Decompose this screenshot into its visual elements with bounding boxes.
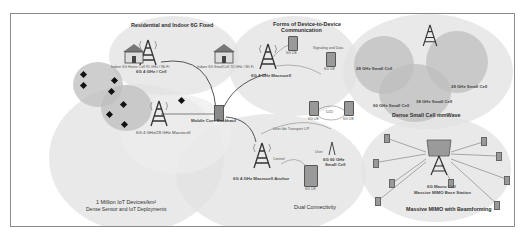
mimo-station-line1: 6G Macro Cell	[427, 184, 456, 189]
residential-title: Residential and Indoor 6G Fixed	[131, 22, 213, 28]
iot-tower-label: 6G 4 GHz/28 GHz Macrocell	[136, 130, 190, 135]
dual-ue-label: 6G UE	[305, 187, 316, 191]
mmwave-cell-d-label: 60 GHz Small Cell	[373, 103, 409, 108]
ue-right-label: 6G UE	[343, 117, 354, 121]
user-plane-label: User-Ide Transport L/P	[273, 127, 309, 131]
ue-left-label: 6G UE	[308, 117, 319, 121]
phone-icon	[326, 52, 336, 67]
d2d-title-line2: Communication	[281, 27, 322, 33]
tower-icon	[255, 42, 281, 70]
mmwave-title: Dense Small Cell mmWave	[392, 112, 460, 118]
d2d-tower-label: 6G 4 GHz Macrocell	[251, 73, 291, 78]
phone-icon	[288, 36, 298, 51]
ue-mid-label: 6G UE	[324, 67, 335, 71]
device-icon	[384, 134, 390, 143]
mmwave-cell-b-label: 28 GHz Small Cell	[451, 84, 487, 89]
iot-title-line1: 1 Million IoT Devices/km²	[96, 199, 156, 205]
ue-top-label: 6G UE	[286, 51, 297, 55]
mmwave-cell-c-label: 38 GHz Small Cell	[416, 99, 452, 104]
device-icon	[375, 197, 381, 206]
tower-icon	[146, 99, 172, 127]
iot-title-line2: Dense Sensor and IoT Deployments	[86, 206, 167, 212]
small-cell-icon	[327, 140, 337, 156]
phone-icon	[309, 101, 319, 116]
d2d-link-label: D2D	[326, 110, 333, 114]
user-label: User	[315, 150, 323, 154]
device-icon	[504, 176, 510, 185]
dual-title: Dual Connectivity	[294, 204, 336, 210]
tower-icon	[419, 23, 441, 47]
phone-icon	[304, 165, 318, 187]
phone-icon	[344, 101, 354, 116]
house-icon	[211, 42, 237, 64]
mimo-station-line2: Massive MIMO Base Station	[414, 190, 471, 195]
mmwave-cell-a-label: 28 GHz Small Cell	[356, 66, 392, 71]
device-icon	[481, 137, 487, 146]
residential-tower-label: 6G 4 GHz / Cell	[136, 69, 167, 74]
signaling-label: Signaling and Data	[313, 46, 343, 50]
device-icon	[494, 201, 500, 210]
dual-tower-label: 6G 4 GHz Macrocell Anchor	[233, 176, 289, 181]
device-icon	[496, 152, 502, 161]
backhaul-label: Mobile Core Backhaul	[191, 118, 236, 123]
control-label: Control	[273, 157, 285, 161]
device-icon	[389, 179, 395, 188]
house-icon	[121, 42, 147, 64]
dual-small-cell-line2: Small Cell	[325, 162, 346, 167]
device-icon	[373, 159, 379, 168]
mimo-base-station-icon	[423, 136, 455, 176]
right-house-label: Indoor 6G SmallCell 70 GHz / Wi-Fi	[197, 65, 254, 69]
mimo-title: Massive MIMO with Beamforming	[406, 206, 492, 212]
tower-icon	[249, 139, 275, 171]
diagram-frame: Residential and Indoor 6G Fixed Indoor 6…	[10, 13, 515, 227]
